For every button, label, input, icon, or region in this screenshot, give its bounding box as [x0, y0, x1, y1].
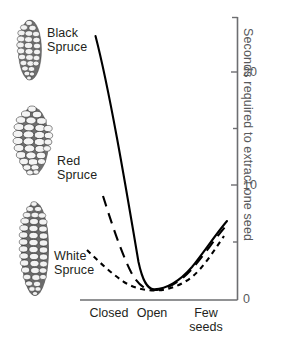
- curve-red-spruce: [103, 196, 225, 290]
- x-tick-label-open: Open: [128, 306, 176, 320]
- spruce-seed-extraction-figure: Black Spruce Red Spruce White Spruce 20 …: [0, 0, 285, 344]
- curve-black-spruce: [96, 36, 228, 289]
- x-tick-label-few-seeds: Few seeds: [182, 306, 230, 334]
- curve-white-spruce: [87, 236, 224, 291]
- y-axis-title: Seconds required to extract one seed: [235, 28, 255, 278]
- y-tick-label-0: 0: [243, 292, 250, 306]
